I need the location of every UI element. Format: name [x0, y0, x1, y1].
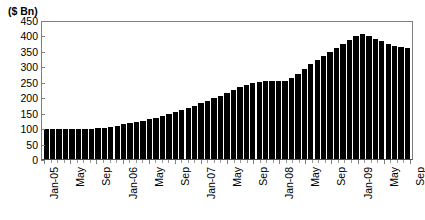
- x-axis-tick-label: Sep: [335, 167, 347, 186]
- x-axis-tick-mark: [149, 160, 150, 164]
- y-axis-tick-label: 150: [4, 108, 38, 120]
- y-axis-tick-label: 400: [4, 30, 38, 42]
- bar: [386, 44, 391, 159]
- bar: [82, 129, 87, 159]
- x-axis-minor-tick-mark: [110, 160, 111, 163]
- bar: [360, 34, 365, 159]
- x-axis-minor-tick-mark: [116, 160, 117, 163]
- x-axis-minor-tick-mark: [51, 160, 52, 163]
- x-axis-tick-mark: [358, 160, 359, 164]
- bar: [211, 98, 216, 159]
- y-axis-tick-mark: [41, 145, 45, 146]
- x-axis-minor-tick-mark: [299, 160, 300, 163]
- bar: [231, 90, 236, 159]
- x-axis-tick-mark: [279, 160, 280, 164]
- x-axis-tick-label: Jan-05: [48, 167, 60, 199]
- y-axis-tick-label: 50: [4, 139, 38, 151]
- bar: [108, 127, 113, 159]
- bar: [347, 40, 352, 159]
- bar: [257, 82, 262, 159]
- x-axis-minor-tick-mark: [273, 160, 274, 163]
- y-axis-tick-mark: [41, 36, 45, 37]
- y-axis-tick-label: 350: [4, 46, 38, 58]
- x-axis-minor-tick-mark: [77, 160, 78, 163]
- x-axis-minor-tick-mark: [240, 160, 241, 163]
- bar: [95, 128, 100, 159]
- bar: [263, 81, 268, 159]
- x-axis-minor-tick-mark: [136, 160, 137, 163]
- x-axis-minor-tick-mark: [83, 160, 84, 163]
- bar: [50, 129, 55, 159]
- x-axis-minor-tick-mark: [207, 160, 208, 163]
- bar: [244, 85, 249, 159]
- bar: [392, 46, 397, 159]
- bar: [166, 114, 171, 159]
- x-axis-minor-tick-mark: [155, 160, 156, 163]
- x-axis-tick-label: May: [74, 167, 86, 187]
- bar: [353, 36, 358, 159]
- bar: [205, 101, 210, 159]
- bars-layer: [42, 22, 412, 159]
- x-axis-minor-tick-mark: [103, 160, 104, 163]
- x-axis-tick-mark: [175, 160, 176, 164]
- x-axis-minor-tick-mark: [371, 160, 372, 163]
- x-axis-tick-label: Sep: [179, 167, 191, 186]
- x-axis-minor-tick-mark: [90, 160, 91, 163]
- bar: [115, 126, 120, 159]
- x-axis-minor-tick-mark: [377, 160, 378, 163]
- plot-area: [41, 21, 413, 160]
- x-axis-tick-label: Jan-07: [205, 167, 217, 199]
- x-axis-tick-mark: [44, 160, 45, 164]
- bar: [121, 124, 126, 159]
- x-axis-minor-tick-mark: [194, 160, 195, 163]
- x-axis-tick-mark: [123, 160, 124, 164]
- x-axis-minor-tick-mark: [234, 160, 235, 163]
- x-axis-minor-tick-mark: [325, 160, 326, 163]
- x-axis-tick-label: Jan-06: [127, 167, 139, 199]
- y-axis-tick-labels: 050100150200250300350400450: [0, 0, 38, 220]
- bar: [269, 81, 274, 159]
- bar: [289, 78, 294, 159]
- y-axis-tick-mark: [41, 83, 45, 84]
- x-axis-tick-mark: [96, 160, 97, 164]
- x-axis-minor-tick-mark: [292, 160, 293, 163]
- bar: [366, 36, 371, 159]
- x-axis-tick-label: May: [388, 167, 400, 187]
- bar: [315, 60, 320, 159]
- x-axis-minor-tick-mark: [181, 160, 182, 163]
- x-axis-tick-label: Jan-09: [362, 167, 374, 199]
- y-axis-tick-label: 450: [4, 15, 38, 27]
- x-axis-minor-tick-mark: [168, 160, 169, 163]
- bar: [237, 87, 242, 159]
- bar: [334, 48, 339, 159]
- bar: [276, 81, 281, 159]
- bar: [308, 64, 313, 159]
- bar: [340, 44, 345, 159]
- bar: [224, 93, 229, 159]
- y-axis-tick-mark: [41, 114, 45, 115]
- x-axis-minor-tick-mark: [142, 160, 143, 163]
- bar: [102, 128, 107, 159]
- y-axis-tick-label: 200: [4, 92, 38, 104]
- bar: [321, 56, 326, 159]
- y-axis-tick-mark: [41, 67, 45, 68]
- x-axis-minor-tick-mark: [57, 160, 58, 163]
- bar: [218, 96, 223, 159]
- bar: [160, 116, 165, 159]
- x-axis-minor-tick-mark: [390, 160, 391, 163]
- bar: [186, 108, 191, 159]
- bar: [153, 118, 158, 159]
- x-axis-tick-mark: [201, 160, 202, 164]
- x-axis-minor-tick-mark: [338, 160, 339, 163]
- x-axis-minor-tick-mark: [129, 160, 130, 163]
- bar: [302, 69, 307, 159]
- x-axis-tick-label: Sep: [100, 167, 112, 186]
- bar: [140, 121, 145, 159]
- bar: [405, 48, 410, 159]
- x-axis-minor-tick-mark: [64, 160, 65, 163]
- y-axis-tick-mark: [41, 52, 45, 53]
- x-axis-minor-tick-mark: [351, 160, 352, 163]
- x-axis-minor-tick-mark: [286, 160, 287, 163]
- x-axis-minor-tick-mark: [364, 160, 365, 163]
- x-axis-minor-tick-mark: [220, 160, 221, 163]
